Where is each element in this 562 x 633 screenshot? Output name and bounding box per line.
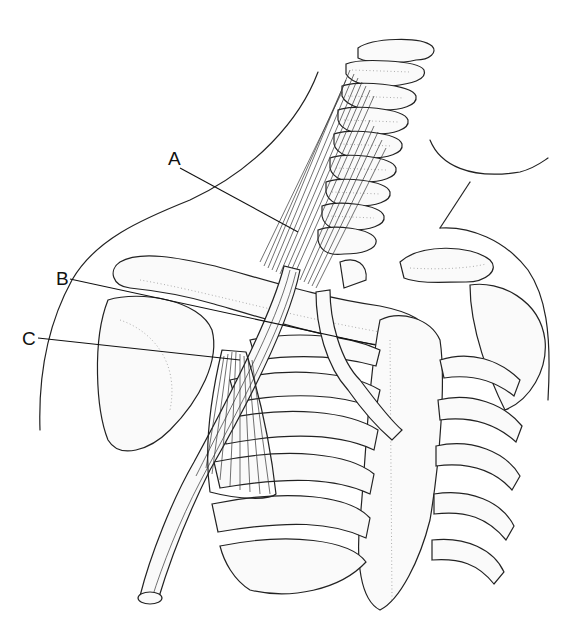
label-a-text: A <box>168 148 181 169</box>
clavicle-left <box>400 248 493 282</box>
cervical-spine <box>318 39 434 254</box>
label-c-text: C <box>22 328 36 349</box>
leader-line-a <box>180 168 298 232</box>
label-b-text: B <box>56 268 69 289</box>
label-A: A <box>168 148 298 232</box>
anatomy-illustration: A B C <box>0 0 562 633</box>
